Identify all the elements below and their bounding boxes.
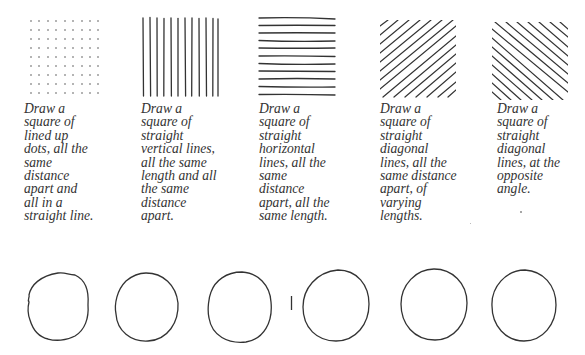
caption-line: apart. xyxy=(141,209,217,222)
caption-line: apart, of xyxy=(380,182,457,195)
caption-line: square of xyxy=(24,115,93,128)
caption-line: same xyxy=(259,169,330,182)
caption-line: straight xyxy=(259,129,330,142)
caption-line: straight line. xyxy=(24,209,93,222)
caption-line: dots, all the xyxy=(24,142,93,155)
caption-line: diagonal xyxy=(380,142,457,155)
caption-line: apart and xyxy=(24,182,93,195)
caption-line: same distance xyxy=(380,169,457,182)
opposite-diagonal-lines-square xyxy=(490,20,570,102)
vertical-lines-square xyxy=(140,16,220,98)
caption-line: square of xyxy=(141,115,217,128)
caption-line: lines, at the xyxy=(497,156,560,169)
caption-line: square of xyxy=(380,115,457,128)
caption-line: lines, all the xyxy=(380,156,457,169)
caption-opposite-diagonal-lines: Draw a square of straight diagonal lines… xyxy=(497,102,560,196)
caption-line: same length. xyxy=(259,209,330,222)
caption-line: apart, all the xyxy=(259,196,330,209)
speck-mark xyxy=(470,223,471,224)
caption-line: length and all xyxy=(141,169,217,182)
hand-drawn-circle xyxy=(303,270,369,341)
caption-line: all the same xyxy=(141,156,217,169)
caption-line: distance xyxy=(141,196,217,209)
hand-drawn-circle xyxy=(492,270,556,341)
caption-line: square of xyxy=(259,115,330,128)
speck-mark xyxy=(520,211,522,213)
caption-line: horizontal xyxy=(259,142,330,155)
caption-line: square of xyxy=(497,115,560,128)
caption-line: same xyxy=(24,156,93,169)
caption-line: straight xyxy=(497,129,560,142)
hand-drawn-circle xyxy=(208,272,271,342)
caption-line: straight xyxy=(141,129,217,142)
caption-vertical-lines: Draw a square of straight vertical lines… xyxy=(141,102,217,223)
caption-line: varying xyxy=(380,196,457,209)
caption-line: lengths. xyxy=(380,209,457,222)
caption-horizontal-lines: Draw a square of straight horizontal lin… xyxy=(259,102,330,223)
caption-line: angle. xyxy=(497,182,560,195)
horizontal-lines-square xyxy=(257,15,337,99)
circles-row xyxy=(0,262,585,352)
caption-line: Draw a xyxy=(141,102,217,115)
caption-line: lined up xyxy=(24,129,93,142)
hand-drawn-circle xyxy=(401,269,467,340)
caption-line: all in a xyxy=(24,196,93,209)
caption-line: Draw a xyxy=(380,102,457,115)
caption-line: the same xyxy=(141,182,217,195)
caption-line: vertical lines, xyxy=(141,142,217,155)
caption-line: diagonal xyxy=(497,142,560,155)
caption-line: distance xyxy=(24,169,93,182)
diagonal-lines-square xyxy=(378,18,458,100)
caption-line: straight xyxy=(380,129,457,142)
caption-line: Draw a xyxy=(24,102,93,115)
caption-dots-grid: Draw a square of lined up dots, all the … xyxy=(24,102,93,223)
dots-grid-square xyxy=(28,18,104,96)
caption-line: Draw a xyxy=(497,102,560,115)
hand-drawn-circle xyxy=(28,273,88,340)
caption-line: lines, all the xyxy=(259,156,330,169)
hand-drawn-circle xyxy=(115,273,178,341)
caption-diagonal-lines: Draw a square of straight diagonal lines… xyxy=(380,102,457,223)
caption-line: distance xyxy=(259,182,330,195)
caption-line: opposite xyxy=(497,169,560,182)
caption-line: Draw a xyxy=(259,102,330,115)
